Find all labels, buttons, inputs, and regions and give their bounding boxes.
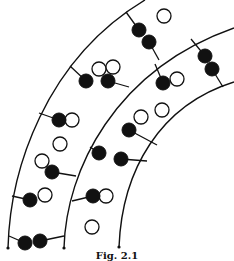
filled-atom-circle — [114, 152, 128, 166]
figure-caption: Fig. 2.1 — [0, 251, 234, 261]
layer-arc — [119, 82, 234, 247]
open-atom-circle — [170, 72, 184, 86]
endpoint-dot — [117, 245, 120, 248]
filled-atom-circle — [101, 74, 115, 88]
open-atom-circle — [99, 189, 113, 203]
open-atom-circle — [155, 103, 169, 117]
endpoint-dot — [6, 246, 9, 249]
filled-atom-circle — [205, 62, 219, 76]
open-atom-circle — [35, 154, 49, 168]
open-atom-circle — [65, 113, 79, 127]
filled-atom-circle — [23, 193, 37, 207]
filled-atom-circle — [33, 234, 47, 248]
open-atom-circle — [53, 137, 67, 151]
filled-atom-circle — [156, 76, 170, 90]
filled-atom-circle — [92, 146, 106, 160]
open-atom-circle — [157, 9, 171, 23]
open-atom-circle — [38, 188, 52, 202]
filled-atom-circle — [142, 35, 156, 49]
filled-atom-circle — [122, 123, 136, 137]
open-atom-circle — [92, 62, 106, 76]
filled-atom-circle — [198, 49, 212, 63]
filled-atom-circle — [86, 189, 100, 203]
open-atom-circle — [106, 60, 120, 74]
filled-atom-circle — [79, 74, 93, 88]
filled-atom-circle — [52, 113, 66, 127]
open-atom-circle — [134, 110, 148, 124]
filled-atoms — [18, 23, 219, 250]
open-atom-circle — [85, 220, 99, 234]
curved-layer-boundaries — [8, 0, 234, 248]
endpoint-dot — [62, 246, 65, 249]
filled-atom-circle — [45, 165, 59, 179]
filled-atom-circle — [132, 23, 146, 37]
filled-atom-circle — [18, 236, 32, 250]
